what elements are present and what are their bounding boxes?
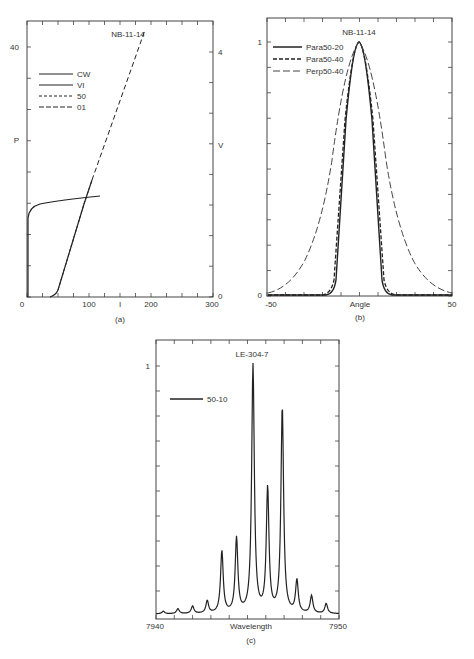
chart-a-xtick-300: 300 xyxy=(205,300,219,309)
series-perp50-40 xyxy=(268,42,452,293)
legend-label-01: 01 xyxy=(77,103,86,112)
chart-a-xtick-200: 200 xyxy=(144,300,158,309)
chart-a: 40 P 4 V 0 0 100 I 200 300 (a) NB-11-14 … xyxy=(10,21,224,324)
chart-b-legend: Para50-20 Para50-40 Perp50-40 xyxy=(273,43,344,76)
chart-b-xtick-neg50: -50 xyxy=(265,300,277,309)
chart-b-ytick-0: 0 xyxy=(258,291,263,300)
chart-a-right-tick-0: 0 xyxy=(218,292,223,301)
legend-label-para50-40: Para50-40 xyxy=(306,55,344,64)
chart-c-frame xyxy=(156,340,339,619)
chart-c: 1 7940 Wavelength 7950 (c) LE-304-7 50-1… xyxy=(146,340,348,645)
legend-label-cw: CW xyxy=(77,70,91,79)
chart-b-xlabel: Angle xyxy=(350,300,371,309)
series-50 xyxy=(58,180,92,290)
figure-canvas: 40 P 4 V 0 0 100 I 200 300 (a) NB-11-14 … xyxy=(0,0,474,659)
chart-a-ticks xyxy=(27,21,213,297)
chart-a-ylabel-left: P xyxy=(14,136,19,145)
chart-a-xtick-0: 0 xyxy=(20,300,25,309)
chart-a-xlabel: I xyxy=(119,300,121,309)
chart-a-ylabel-right: V xyxy=(218,141,224,150)
chart-c-xlabel: Wavelength xyxy=(230,622,272,631)
chart-c-xtick-7950: 7950 xyxy=(329,622,347,631)
legend-label-50-10: 50-10 xyxy=(207,395,228,404)
chart-b-xtick-50: 50 xyxy=(448,300,457,309)
chart-c-xtick-7940: 7940 xyxy=(146,622,164,631)
series-para50-40 xyxy=(268,42,452,295)
legend-label-50: 50 xyxy=(77,92,86,101)
chart-a-right-tick-4: 4 xyxy=(218,48,223,57)
series-50-10 xyxy=(156,363,339,614)
legend-label-perp50-40: Perp50-40 xyxy=(306,67,344,76)
chart-b-caption: (b) xyxy=(355,313,365,322)
chart-c-ticks xyxy=(156,340,339,619)
chart-a-ytick-40: 40 xyxy=(10,43,19,52)
chart-c-title: LE-304-7 xyxy=(236,350,269,359)
series-para50-20 xyxy=(268,42,452,295)
chart-a-legend: CW VI 50 01 xyxy=(39,70,91,112)
chart-b-ytick-1: 1 xyxy=(258,38,263,47)
chart-c-caption: (c) xyxy=(246,636,256,645)
chart-b: 1 0 -50 Angle 50 (b) NB-11-14 Para50-20 … xyxy=(258,18,457,322)
chart-a-frame xyxy=(27,21,213,297)
legend-label-para50-20: Para50-20 xyxy=(306,43,344,52)
chart-a-xtick-100: 100 xyxy=(82,300,96,309)
chart-a-title: NB-11-14 xyxy=(111,30,145,39)
chart-a-caption: (a) xyxy=(115,315,125,324)
chart-c-legend: 50-10 xyxy=(170,395,228,404)
chart-b-title: NB-11-14 xyxy=(342,28,376,37)
chart-c-ytick-1: 1 xyxy=(146,362,151,371)
series-01 xyxy=(92,30,145,180)
series-cw xyxy=(28,196,100,297)
legend-label-vi: VI xyxy=(77,81,85,90)
